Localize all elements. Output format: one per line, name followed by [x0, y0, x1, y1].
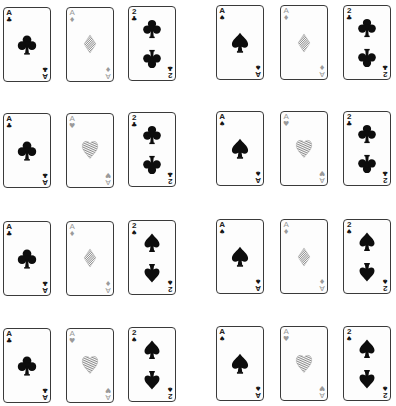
heart-icon — [82, 356, 99, 375]
card-ace-of-hearts: A♥A♥ — [66, 113, 114, 188]
heart-icon: ♥ — [69, 338, 75, 345]
card-ace-of-spades: A♠A♠ — [216, 5, 264, 80]
corner-index-top: A♥ — [69, 330, 75, 345]
rank-label: A — [42, 286, 48, 294]
corner-index-top: A♥ — [283, 113, 289, 128]
rank-label: A — [319, 284, 324, 292]
heart-icon: ♥ — [69, 123, 75, 130]
diamond-icon — [84, 35, 97, 54]
rank-label: A — [42, 393, 48, 401]
heart-icon: ♥ — [105, 386, 111, 393]
spade-icon — [359, 339, 376, 359]
club-icon — [18, 140, 37, 161]
corner-index-bottom: 2♠ — [167, 278, 173, 293]
diamond-icon: ♦ — [283, 229, 289, 236]
card-ace-of-spades: A♠A♠ — [216, 111, 264, 186]
card-two-of-clubs: 2♣2♣ — [343, 5, 391, 80]
card-ace-of-diamonds: A♦A♦ — [66, 7, 114, 82]
spade-icon: ♠ — [219, 336, 225, 343]
club-icon — [18, 248, 37, 269]
card-two-of-clubs: 2♣2♣ — [128, 6, 176, 81]
card-ace-of-spades: A♠A♠ — [216, 326, 264, 401]
heart-icon: ♥ — [105, 171, 111, 178]
corner-index-top: A♣ — [6, 115, 12, 130]
corner-index-bottom: A♦ — [319, 277, 325, 292]
corner-index-top: 2♠ — [131, 329, 137, 344]
corner-index-bottom: A♥ — [105, 171, 111, 186]
card-ace-of-clubs: A♣A♣ — [3, 328, 51, 403]
spade-icon — [144, 233, 161, 253]
spade-icon: ♠ — [255, 384, 261, 391]
corner-index-top: A♥ — [283, 328, 289, 343]
spade-icon — [359, 262, 376, 282]
club-icon: ♣ — [42, 279, 48, 286]
diamond-icon: ♦ — [283, 15, 289, 22]
diamond-icon — [298, 33, 311, 52]
spade-icon: ♠ — [255, 63, 261, 70]
spade-icon — [144, 340, 161, 360]
corner-index-bottom: A♣ — [42, 171, 48, 186]
card-two-of-spades: 2♠2♠ — [343, 219, 391, 294]
corner-index-bottom: 2♣ — [167, 64, 173, 79]
card-two-of-spades: 2♠2♠ — [128, 327, 176, 402]
rank-label: A — [319, 176, 324, 184]
spade-icon — [144, 263, 161, 283]
corner-index-bottom: A♦ — [319, 63, 325, 78]
rank-label: 2 — [383, 176, 387, 184]
corner-index-top: A♥ — [69, 115, 75, 130]
corner-index-bottom: A♠ — [255, 169, 261, 184]
spade-icon — [231, 32, 249, 54]
card-ace-of-diamonds: A♦A♦ — [66, 221, 114, 296]
corner-index-bottom: A♠ — [255, 277, 261, 292]
corner-index-top: 2♣ — [346, 7, 352, 22]
club-icon: ♣ — [42, 171, 48, 178]
diamond-icon — [84, 249, 97, 268]
rank-label: 2 — [168, 177, 172, 185]
rank-label: A — [42, 178, 48, 186]
rank-label: 2 — [168, 71, 172, 79]
club-icon — [358, 18, 376, 38]
card-ace-of-hearts: A♥A♥ — [280, 326, 328, 401]
corner-index-bottom: A♠ — [255, 384, 261, 399]
corner-index-top: 2♣ — [131, 8, 137, 23]
corner-index-bottom: A♥ — [105, 386, 111, 401]
rank-label: A — [255, 391, 261, 399]
spade-icon: ♠ — [167, 385, 173, 392]
corner-index-top: 2♠ — [131, 222, 137, 237]
club-icon — [143, 155, 161, 175]
corner-index-top: A♠ — [219, 221, 225, 236]
spade-icon — [359, 232, 376, 252]
rank-label: A — [255, 284, 261, 292]
club-icon: ♣ — [346, 15, 352, 22]
club-icon: ♣ — [382, 169, 388, 176]
club-icon — [358, 124, 376, 144]
corner-index-top: 2♣ — [131, 114, 137, 129]
spade-icon: ♠ — [219, 229, 225, 236]
rank-label: 2 — [383, 391, 387, 399]
corner-index-bottom: A♦ — [105, 65, 111, 80]
rank-label: A — [319, 70, 324, 78]
corner-index-bottom: A♠ — [255, 63, 261, 78]
heart-icon — [296, 139, 313, 158]
club-icon — [358, 154, 376, 174]
spade-icon: ♠ — [219, 121, 225, 128]
diamond-icon: ♦ — [69, 231, 75, 238]
corner-index-bottom: A♣ — [42, 65, 48, 80]
diamond-icon — [298, 247, 311, 266]
club-icon: ♣ — [6, 17, 12, 24]
diamond-icon: ♦ — [105, 65, 111, 72]
club-icon: ♣ — [6, 338, 12, 345]
corner-index-bottom: 2♠ — [382, 277, 388, 292]
club-icon: ♣ — [167, 64, 173, 71]
club-icon: ♣ — [6, 123, 12, 130]
corner-index-top: A♦ — [283, 221, 289, 236]
spade-icon: ♠ — [346, 336, 352, 343]
club-icon: ♣ — [131, 16, 137, 23]
club-icon — [18, 355, 37, 376]
corner-index-bottom: 2♠ — [167, 385, 173, 400]
corner-index-bottom: A♦ — [105, 279, 111, 294]
corner-index-top: 2♣ — [346, 113, 352, 128]
rank-label: 2 — [383, 70, 387, 78]
diamond-icon: ♦ — [69, 17, 75, 24]
diamond-icon: ♦ — [105, 279, 111, 286]
